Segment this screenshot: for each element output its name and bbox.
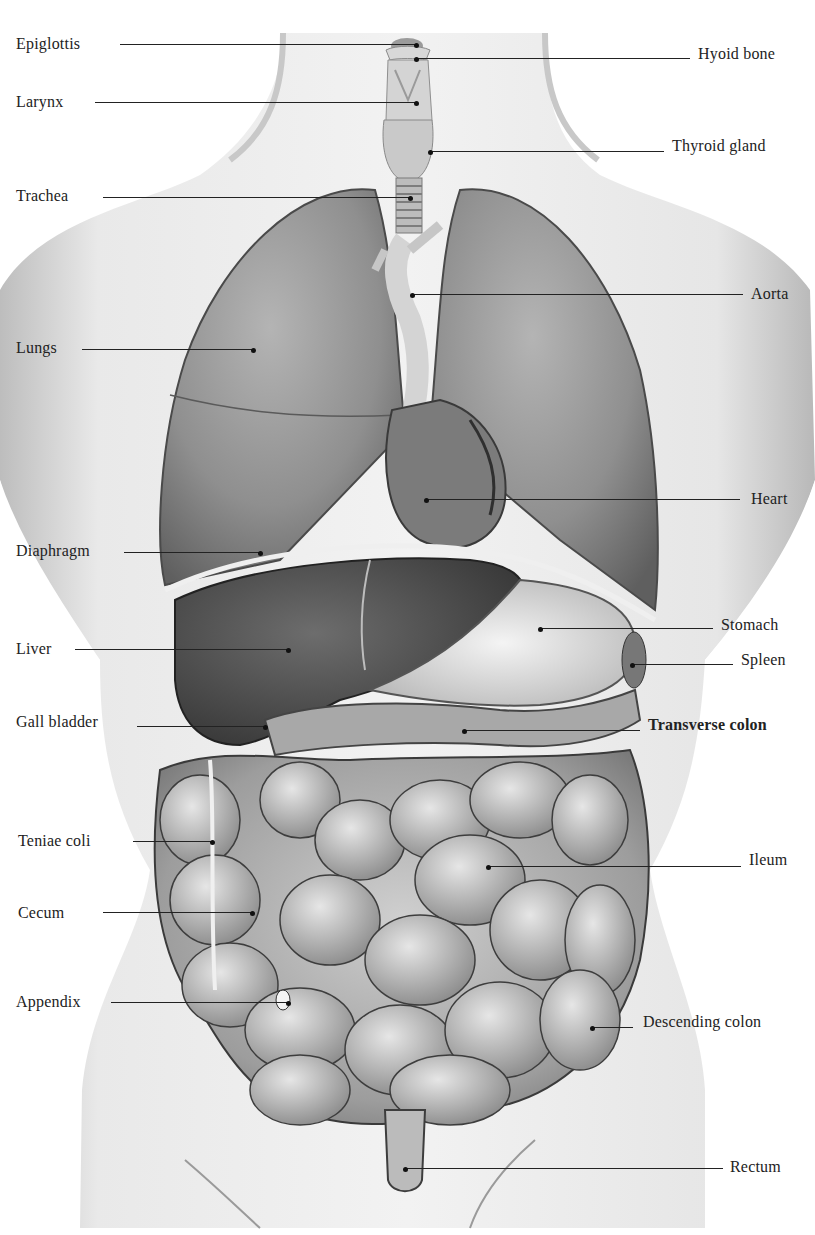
- leader-line-appendix: [111, 1002, 288, 1003]
- label-descending-colon: Descending colon: [643, 1013, 761, 1031]
- leader-line-transverse-colon: [464, 730, 640, 731]
- label-liver: Liver: [16, 640, 52, 658]
- pointer-dot-descending-colon: [590, 1026, 595, 1031]
- pointer-dot-spleen: [630, 663, 635, 668]
- leader-line-epiglottis: [120, 44, 416, 45]
- rectum: [385, 1110, 425, 1191]
- label-teniae-coli: Teniae coli: [18, 832, 91, 850]
- larynx-hyoid: [383, 38, 433, 182]
- label-larynx: Larynx: [16, 93, 63, 111]
- leader-line-spleen: [632, 664, 733, 665]
- leader-line-liver: [75, 649, 288, 650]
- pointer-dot-gall-bladder: [263, 725, 268, 730]
- pointer-dot-liver: [286, 648, 291, 653]
- pointer-dot-larynx: [414, 101, 419, 106]
- label-transverse-colon: Transverse colon: [648, 716, 767, 734]
- leader-line-aorta: [412, 294, 743, 295]
- leader-line-cecum: [103, 912, 252, 913]
- leader-line-heart: [426, 499, 740, 500]
- label-ileum: Ileum: [749, 851, 787, 869]
- label-hyoid-bone: Hyoid bone: [698, 45, 775, 63]
- label-rectum: Rectum: [730, 1158, 781, 1176]
- label-gall-bladder: Gall bladder: [16, 713, 98, 731]
- leader-line-lungs: [82, 349, 253, 350]
- label-lungs: Lungs: [16, 339, 57, 357]
- leader-line-rectum: [405, 1168, 723, 1169]
- leader-line-teniae-coli: [133, 841, 212, 842]
- label-spleen: Spleen: [741, 651, 786, 669]
- leader-line-stomach: [540, 628, 713, 629]
- label-aorta: Aorta: [751, 285, 788, 303]
- label-cecum: Cecum: [18, 904, 64, 922]
- leader-line-hyoid-bone: [416, 58, 690, 59]
- pointer-dot-diaphragm: [258, 551, 263, 556]
- leader-line-thyroid-gland: [430, 151, 664, 152]
- pointer-dot-trachea: [408, 196, 413, 201]
- pointer-dot-lungs: [251, 348, 256, 353]
- label-stomach: Stomach: [721, 616, 778, 634]
- label-epiglottis: Epiglottis: [16, 35, 80, 53]
- pointer-dot-teniae-coli: [210, 840, 215, 845]
- label-appendix: Appendix: [16, 993, 81, 1011]
- leader-line-ileum: [488, 866, 741, 867]
- pointer-dot-rectum: [403, 1167, 408, 1172]
- label-trachea: Trachea: [16, 187, 68, 205]
- anatomy-illustration: [0, 0, 815, 1235]
- pointer-dot-epiglottis: [414, 43, 419, 48]
- pointer-dot-stomach: [538, 627, 543, 632]
- leader-line-descending-colon: [592, 1027, 633, 1028]
- pointer-dot-appendix: [286, 1001, 291, 1006]
- pointer-dot-cecum: [250, 911, 255, 916]
- pointer-dot-heart: [424, 498, 429, 503]
- pointer-dot-transverse-colon: [462, 729, 467, 734]
- pointer-dot-hyoid-bone: [414, 57, 419, 62]
- leader-line-diaphragm: [124, 552, 260, 553]
- leader-line-larynx: [95, 102, 416, 103]
- leader-line-gall-bladder: [137, 726, 265, 727]
- spleen: [622, 632, 646, 688]
- pointer-dot-aorta: [410, 293, 415, 298]
- pointer-dot-thyroid-gland: [428, 150, 433, 155]
- leader-line-trachea: [103, 197, 410, 198]
- pointer-dot-ileum: [486, 865, 491, 870]
- label-thyroid-gland: Thyroid gland: [672, 137, 766, 155]
- label-heart: Heart: [751, 490, 788, 508]
- label-diaphragm: Diaphragm: [16, 542, 90, 560]
- trachea: [396, 178, 422, 233]
